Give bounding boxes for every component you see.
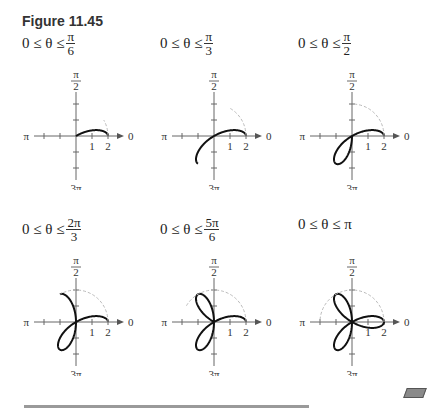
tick-label-1: 1 [227, 140, 233, 152]
polar-plot: π012π23π2 [160, 246, 300, 376]
tick-label-1: 1 [227, 326, 233, 338]
angle-label-pi-over-2-num: π [73, 68, 79, 80]
angle-label-zero: 0 [128, 316, 134, 328]
fraction-denominator: 6 [67, 44, 74, 57]
tick-label-1: 1 [365, 140, 371, 152]
angle-label-3pi-over-2-num: 3π [70, 182, 82, 190]
angle-label-pi-over-2-num: π [349, 68, 355, 80]
fraction-denominator: 3 [71, 230, 78, 243]
angle-label-pi: π [23, 316, 29, 328]
axis-arrow-icon [117, 133, 124, 139]
angle-label-pi: π [23, 130, 29, 142]
fraction-numerator: π [66, 30, 75, 44]
tick-label-1: 1 [89, 326, 95, 338]
angle-label-3pi-over-2-num: 3π [346, 182, 358, 190]
fraction-denominator: 2 [343, 44, 350, 57]
axis-arrow-icon [117, 319, 124, 325]
polar-plot-panel: 0 ≤ θ ≤ π6π012π23π2 [22, 30, 162, 200]
theta-range-label: 0 ≤ θ ≤ π [298, 216, 352, 233]
polar-plot-panel: 0 ≤ θ ≤ π3π012π23π2 [160, 30, 300, 200]
theta-range-text: 0 ≤ θ ≤ [160, 35, 202, 52]
page-corner-marker [403, 388, 427, 398]
angle-label-pi: π [161, 130, 167, 142]
angle-label-zero: 0 [404, 316, 410, 328]
axis-arrow-icon [255, 319, 262, 325]
polar-plot-panel: 0 ≤ θ ≤ ππ012π23π2 [298, 216, 427, 386]
theta-range-text: 0 ≤ θ ≤ [298, 35, 340, 52]
theta-upper-fraction: 5π6 [204, 216, 219, 243]
axis-arrow-icon [393, 133, 400, 139]
fraction-numerator: π [204, 30, 213, 44]
angle-label-pi: π [161, 316, 167, 328]
angle-label-pi-over-2-den: 2 [73, 80, 79, 92]
angle-label-zero: 0 [404, 130, 410, 142]
rose-curve [334, 130, 384, 164]
tick-label-1: 1 [89, 140, 95, 152]
angle-label-pi-over-2-den: 2 [349, 266, 355, 278]
tick-label-2: 2 [381, 140, 387, 152]
fraction-denominator: 6 [209, 230, 216, 243]
theta-range-label: 0 ≤ θ ≤ π3 [160, 30, 213, 57]
theta-range-label: 0 ≤ θ ≤ π2 [298, 30, 351, 57]
tick-label-2: 2 [243, 326, 249, 338]
bottom-rule [24, 405, 309, 408]
axis-arrow-icon [393, 319, 400, 325]
polar-plot: π012π23π2 [22, 60, 162, 190]
angle-label-pi-over-2-num: π [211, 254, 217, 266]
polar-plot-panel: 0 ≤ θ ≤ 2π3π012π23π2 [22, 216, 162, 386]
tick-label-2: 2 [381, 326, 387, 338]
theta-upper-fraction: 2π3 [66, 216, 81, 243]
theta-range-label: 0 ≤ θ ≤ π6 [22, 30, 75, 57]
theta-range-text: 0 ≤ θ ≤ [160, 221, 202, 238]
polar-plot: π012π23π2 [160, 60, 300, 190]
tick-label-2: 2 [243, 140, 249, 152]
theta-range-text: 0 ≤ θ ≤ [22, 35, 64, 52]
angle-label-pi-over-2-den: 2 [73, 266, 79, 278]
rose-curve [196, 130, 246, 164]
angle-label-pi-over-2-num: π [211, 68, 217, 80]
angle-label-3pi-over-2-num: 3π [208, 182, 220, 190]
angle-label-pi: π [299, 130, 305, 142]
angle-label-3pi-over-2-num: 3π [346, 368, 358, 376]
tick-label-2: 2 [105, 326, 111, 338]
polar-plot: π012π23π2 [22, 246, 162, 376]
theta-range-text: 0 ≤ θ ≤ π [298, 216, 352, 233]
angle-label-zero: 0 [128, 130, 134, 142]
theta-range-label: 0 ≤ θ ≤ 2π3 [22, 216, 81, 243]
polar-plot-panel: 0 ≤ θ ≤ π2π012π23π2 [298, 30, 427, 200]
theta-range-text: 0 ≤ θ ≤ [22, 221, 64, 238]
tick-label-2: 2 [105, 140, 111, 152]
angle-label-pi-over-2-den: 2 [211, 80, 217, 92]
angle-label-pi: π [299, 316, 305, 328]
angle-label-3pi-over-2-num: 3π [208, 368, 220, 376]
theta-upper-fraction: π6 [66, 30, 75, 57]
polar-plot-panel: 0 ≤ θ ≤ 5π6π012π23π2 [160, 216, 300, 386]
fraction-denominator: 3 [205, 44, 212, 57]
theta-upper-fraction: π2 [342, 30, 351, 57]
angle-label-pi-over-2-num: π [349, 254, 355, 266]
theta-range-label: 0 ≤ θ ≤ 5π6 [160, 216, 219, 243]
polar-plot: π012π23π2 [298, 246, 427, 376]
angle-label-pi-over-2-den: 2 [349, 80, 355, 92]
angle-label-zero: 0 [266, 130, 272, 142]
fraction-numerator: π [342, 30, 351, 44]
angle-label-3pi-over-2-num: 3π [70, 368, 82, 376]
angle-label-pi-over-2-num: π [73, 254, 79, 266]
polar-plot: π012π23π2 [298, 60, 427, 190]
angle-label-pi-over-2-den: 2 [211, 266, 217, 278]
axis-arrow-icon [255, 133, 262, 139]
angle-label-zero: 0 [266, 316, 272, 328]
theta-upper-fraction: π3 [204, 30, 213, 57]
figure-title: Figure 11.45 [22, 13, 103, 29]
fraction-numerator: 2π [66, 216, 81, 230]
fraction-numerator: 5π [204, 216, 219, 230]
